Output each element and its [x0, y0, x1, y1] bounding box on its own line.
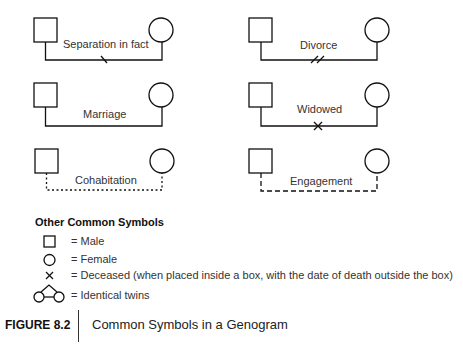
female-circle-icon	[150, 149, 174, 173]
figure-number: FIGURE 8.2	[5, 318, 70, 332]
legend-item-female: = Female	[71, 253, 117, 265]
legend-twins-icon	[34, 285, 64, 302]
legend-female-circle-icon	[44, 255, 55, 266]
male-square-icon	[35, 149, 58, 173]
female-circle-icon	[149, 83, 173, 107]
legend-title: Other Common Symbols	[35, 216, 164, 228]
relationship-label-separation: Separation in fact	[63, 38, 149, 50]
male-square-icon	[249, 18, 272, 42]
female-circle-icon	[149, 18, 173, 42]
relationship-label-marriage: Marriage	[83, 108, 126, 120]
relationship-label-engagement: Engagement	[290, 175, 352, 187]
genogram-diagram	[0, 0, 463, 352]
relationship-label-widowed: Widowed	[297, 103, 342, 115]
male-square-icon	[249, 83, 272, 107]
legend-item-male: = Male	[71, 235, 104, 247]
male-square-icon	[249, 149, 272, 173]
legend-item-deceased: = Deceased (when placed inside a box, wi…	[71, 269, 453, 281]
female-circle-icon	[365, 83, 389, 107]
female-circle-icon	[365, 18, 389, 42]
relationship-label-cohabitation: Cohabitation	[75, 174, 137, 186]
male-square-icon	[34, 83, 57, 107]
legend-item-twins: = Identical twins	[71, 289, 150, 301]
caption-divider	[78, 310, 79, 342]
legend-male-square-icon	[44, 236, 55, 247]
figure-caption: Common Symbols in a Genogram	[92, 317, 288, 332]
male-square-icon	[34, 18, 57, 42]
relationship-label-divorce: Divorce	[300, 39, 337, 51]
female-circle-icon	[365, 149, 389, 173]
